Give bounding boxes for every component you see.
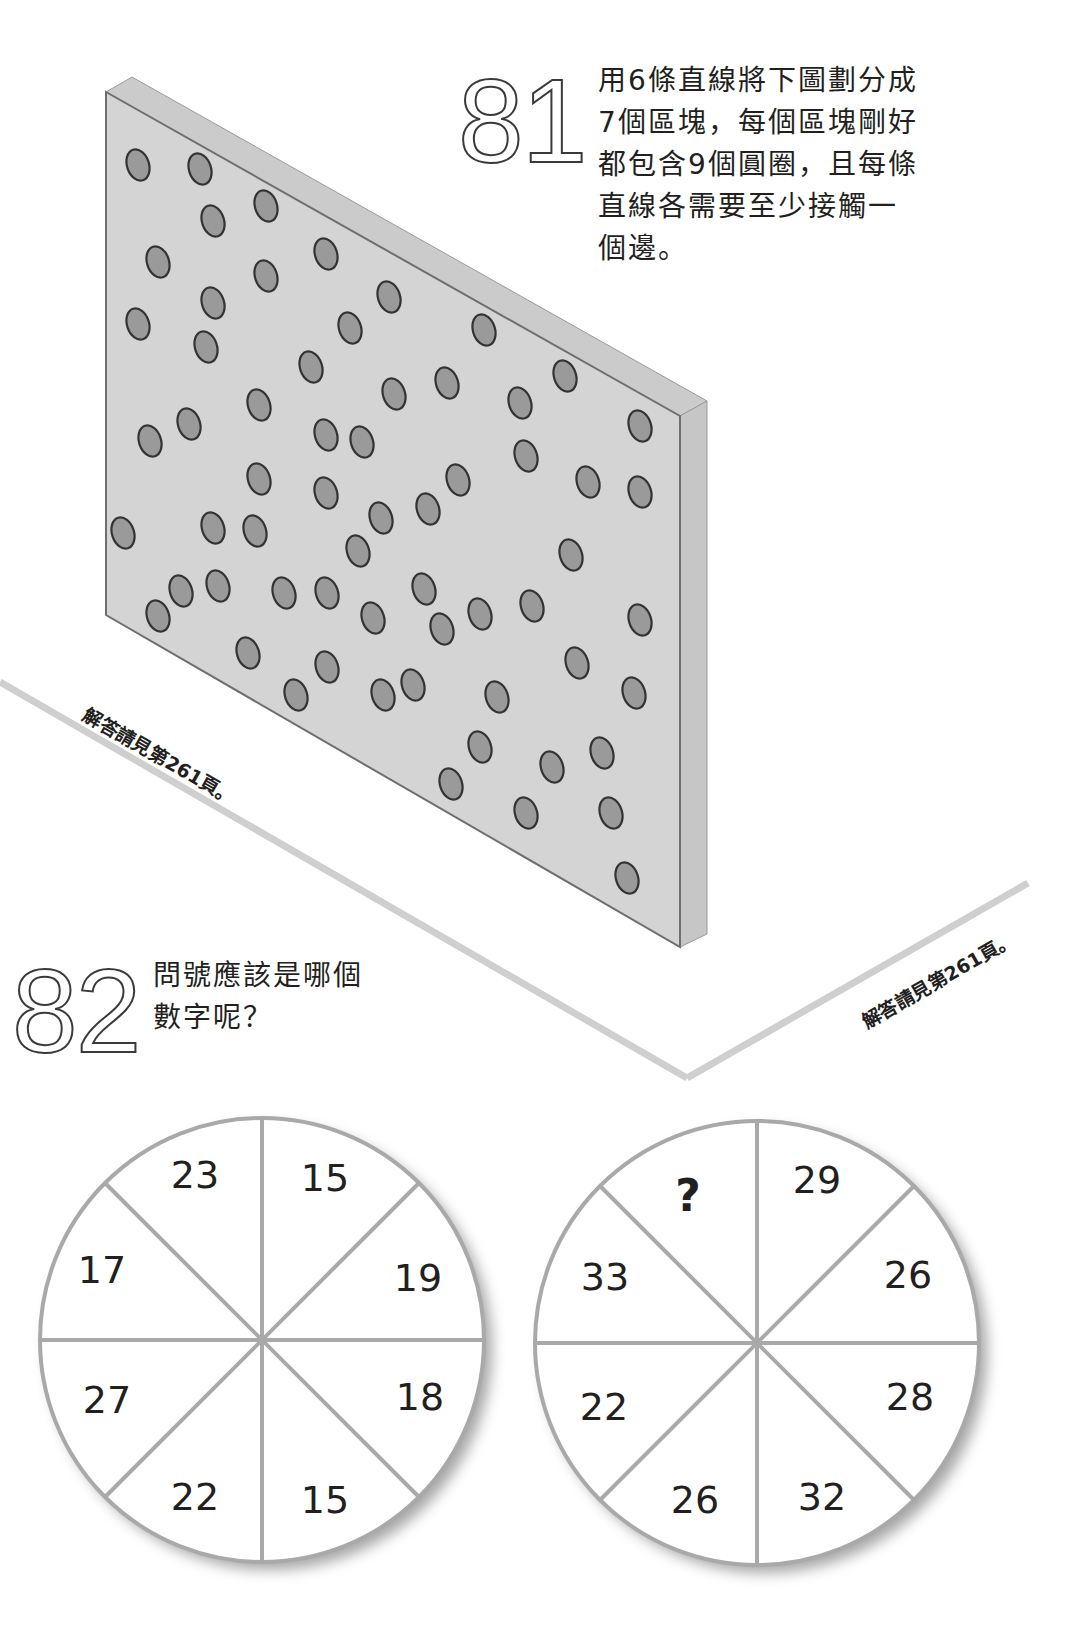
wheel-number: 15 (301, 1156, 349, 1200)
puzzle-82-number: 82 (12, 952, 139, 1070)
wheel-number: 29 (793, 1158, 841, 1202)
wheel-number: 22 (171, 1475, 219, 1519)
left-wheel: 2315191815222717 (40, 1118, 484, 1562)
wheel-number: 26 (884, 1253, 932, 1297)
wheel-number: 32 (798, 1475, 846, 1519)
wheel-number: 33 (581, 1255, 629, 1299)
puzzle-82-line-1: 問號應該是哪個 (153, 955, 363, 997)
ground-line-right (687, 883, 1028, 1078)
board-side-face (680, 401, 707, 947)
puzzle-81-line-1: 用6條直線將下圖劃分成 (598, 60, 918, 102)
question-mark-segment: ? (675, 1170, 701, 1221)
puzzle-81-line-2: 7個區塊，每個區塊剛好 (598, 102, 918, 144)
puzzle-81-line-5: 個邊。 (598, 228, 918, 270)
puzzle-82-instructions: 問號應該是哪個 數字呢？ (153, 955, 363, 1039)
puzzle-81-number: 81 (458, 62, 585, 180)
puzzle-81-line-4: 直線各需要至少接觸一 (598, 186, 918, 228)
wheel-number: 27 (83, 1378, 131, 1422)
wheel-number: 26 (671, 1478, 719, 1522)
wheel-number: 19 (394, 1256, 442, 1300)
wheel-number: 22 (580, 1385, 628, 1429)
wheel-number: 28 (886, 1375, 934, 1419)
wheel-number: 18 (396, 1375, 444, 1419)
wheel-number: 23 (171, 1153, 219, 1197)
puzzle-81-instructions: 用6條直線將下圖劃分成 7個區塊，每個區塊剛好 都包含9個圓圈，且每條 直線各需… (598, 60, 918, 270)
puzzle-81-line-3: 都包含9個圓圈，且每條 (598, 144, 918, 186)
number-wheels: 2315191815222717?29262832262233 (40, 1118, 979, 1565)
puzzle-82-line-2: 數字呢？ (153, 997, 363, 1039)
right-wheel: ?29262832262233 (535, 1121, 979, 1565)
wheel-number: 17 (78, 1248, 126, 1292)
wheel-number: 15 (301, 1478, 349, 1522)
